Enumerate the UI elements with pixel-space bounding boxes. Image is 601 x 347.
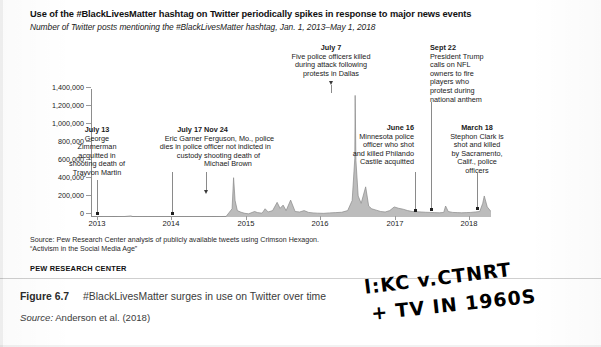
annotation-leader-line [331, 85, 332, 93]
annotation-line: national anthem [430, 95, 482, 104]
figure-credit: Source: Anderson et al. (2018) [20, 312, 150, 323]
annotation-arrow-icon [204, 190, 208, 194]
annotation-leader-line [172, 172, 173, 213]
credit-text: Anderson et al. (2018) [55, 312, 150, 323]
annotation-line: Trayvon Martin [73, 168, 121, 177]
annotation-line: Castile acquitted [360, 157, 414, 166]
annotation-nov-24-2014: Nov 24 Ferguson, Mo., police officer not… [204, 126, 296, 169]
y-tick-mark [86, 87, 91, 88]
x-tick-label-2018: 2018 [449, 219, 489, 229]
chart-source-note: Source: Pew Research Center analysis of … [30, 236, 550, 255]
pew-research-chart-figure: Use of the #BlackLivesMatter hashtag on … [0, 0, 601, 278]
annotation-marker-dot [476, 207, 479, 210]
annotation-leader-line [97, 180, 98, 213]
annotation-line: custody [177, 151, 202, 160]
annotation-july-7-2016: July 7 Five police officers killed durin… [278, 44, 384, 78]
figure-caption-text: #BlackLivesMatter surges in use on Twitt… [83, 291, 326, 302]
scanned-figure-page: Use of the #BlackLivesMatter hashtag on … [0, 0, 601, 347]
annotation-leader-line [477, 172, 478, 208]
y-tick-label-0: 0 [80, 210, 84, 218]
y-tick-label-200000: 200,000 [58, 192, 84, 200]
pew-research-center-wordmark: PEW RESEARCH CENTER [30, 264, 127, 273]
y-tick-label-1200000: 1,200,000 [52, 102, 84, 110]
plot-area: 1,400,000 1,200,000 1,000,000 800,000 60… [0, 0, 601, 232]
annotation-leader-line [206, 172, 207, 192]
annotation-marker-dot [430, 208, 433, 211]
annotation-line: protests in Dallas [303, 69, 359, 78]
x-axis-labels: 2013 2014 2015 2016 2017 2018 [0, 219, 601, 233]
annotation-july-13-2013: July 13 George Zimmerman acquitted in sh… [55, 126, 139, 178]
source-line-2: “Activism in the Social Media Age” [30, 245, 550, 254]
annotation-june-16-2017: June 16 Minnesota police officer who sho… [328, 124, 414, 167]
x-tick-label-2015: 2015 [226, 219, 266, 229]
figure-caption: Figure 6.7#BlackLivesMatter surges in us… [20, 291, 326, 302]
annotation-leader-line [415, 172, 416, 210]
scan-edge-left [0, 0, 3, 347]
annotation-july-17-2014: July 17 Eric Garner dies in police custo… [140, 126, 202, 160]
annotation-march-18-2018: March 18 Stephon Clark is shot and kille… [432, 124, 522, 176]
source-line-1: Source: Pew Research Center analysis of … [30, 236, 319, 244]
x-tick-label-2013: 2013 [77, 219, 117, 229]
annotation-sept-22-2017: Sept 22 President Trump calls on NFL own… [430, 44, 506, 104]
annotation-arrow-icon [329, 81, 333, 85]
credit-label: Source: [20, 312, 53, 323]
annotation-marker-dot [96, 212, 99, 215]
annotation-marker-dot [171, 212, 174, 215]
x-tick-label-2016: 2016 [300, 219, 340, 229]
y-tick-label-1400000: 1,400,000 [52, 84, 84, 92]
annotation-marker-dot [414, 209, 417, 212]
x-tick-label-2014: 2014 [151, 219, 191, 229]
figure-number: Figure 6.7 [20, 291, 69, 302]
annotation-line: Michael Brown [204, 159, 252, 168]
x-tick-label-2017: 2017 [375, 219, 415, 229]
